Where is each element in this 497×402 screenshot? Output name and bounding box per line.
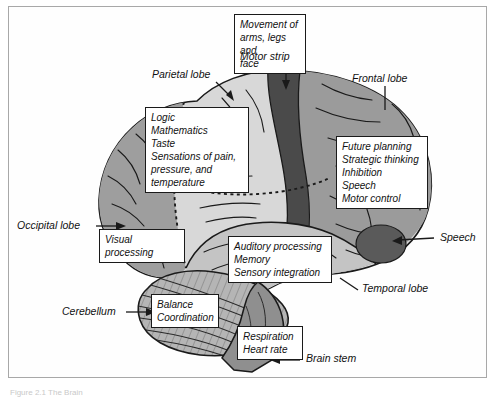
label-brain-stem: Brain stem — [306, 352, 356, 365]
speech-area-region — [356, 225, 406, 263]
callout-temporal-functions: Auditory processing Memory Sensory integ… — [228, 236, 332, 283]
label-temporal-lobe: Temporal lobe — [362, 282, 428, 295]
callout-occipital-functions: Visual processing — [99, 229, 185, 263]
callout-cerebellum-functions: Balance Coordination — [151, 294, 219, 328]
callout-parietal-functions: Logic Mathematics Taste Sensations of pa… — [145, 107, 249, 193]
label-speech: Speech — [440, 231, 476, 244]
callout-frontal-functions: Future planning Strategic thinking Inhib… — [336, 136, 428, 209]
label-motor-strip: Motor strip — [240, 50, 290, 63]
label-parietal-lobe: Parietal lobe — [152, 68, 210, 81]
label-occipital-lobe: Occipital lobe — [17, 219, 80, 232]
callout-motor-functions: Movement of arms, legs and face — [234, 14, 306, 74]
label-cerebellum: Cerebellum — [62, 305, 116, 318]
label-frontal-lobe: Frontal lobe — [352, 72, 407, 85]
brain-diagram-figure: Movement of arms, legs and face Logic Ma… — [0, 0, 497, 402]
leader-temporal — [340, 278, 358, 290]
figure-caption: Figure 2.1 The Brain — [10, 388, 83, 397]
callout-brainstem-functions: Respiration Heart rate — [237, 326, 303, 360]
